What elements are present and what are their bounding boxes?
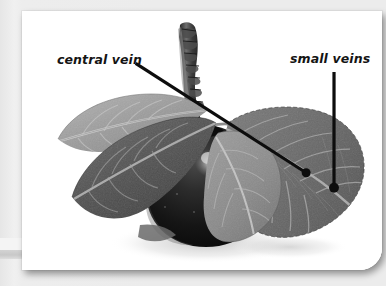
slide-background: central vein small veins <box>0 0 386 286</box>
annotation-label-central-vein: central vein <box>57 54 142 67</box>
photo-card: central vein small veins <box>22 11 382 270</box>
apple-photograph <box>22 11 382 270</box>
apple-photo-svg <box>22 11 382 270</box>
ground-shadow-right <box>232 235 348 259</box>
photo-card-inner: central vein small veins <box>22 11 382 270</box>
annotation-label-small-veins: small veins <box>290 53 370 66</box>
